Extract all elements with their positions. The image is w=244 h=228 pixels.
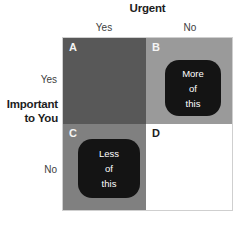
quadrant-c-callout-line2: of (105, 161, 113, 176)
quadrant-d-label: D (152, 127, 160, 139)
column-header-no: No (148, 22, 232, 33)
quadrant-d[interactable]: D (146, 124, 232, 210)
quadrant-a[interactable]: A (63, 38, 146, 124)
quadrant-b-callout-line2: of (189, 81, 197, 96)
row-header-no: No (0, 164, 57, 175)
row-header-yes: Yes (0, 74, 57, 85)
quadrant-c-label: C (69, 127, 77, 139)
quadrant-c-callout: Less of this (78, 139, 140, 198)
quadrant-b-label: B (152, 41, 160, 53)
top-axis-title: Urgent (63, 2, 232, 14)
quadrant-b-callout-line3: this (186, 96, 201, 111)
quadrant-c[interactable]: C Less of this (63, 124, 146, 210)
quadrant-b-callout: More of this (165, 60, 221, 116)
quadrant-a-label: A (69, 41, 77, 53)
quadrant-b[interactable]: B More of this (146, 38, 232, 124)
matrix-diagram: Urgent Yes No Important to You Yes No A … (0, 0, 244, 228)
quadrant-c-callout-line3: this (102, 176, 117, 191)
quadrant-c-callout-line1: Less (99, 146, 119, 161)
left-axis-title: Important to You (0, 98, 58, 125)
left-axis-title-line2: to You (0, 112, 58, 126)
column-header-yes: Yes (62, 22, 146, 33)
quadrant-b-callout-line1: More (182, 66, 204, 81)
left-axis-title-line1: Important (7, 98, 58, 110)
matrix-grid: A B More of this C Less of this D (63, 38, 232, 210)
